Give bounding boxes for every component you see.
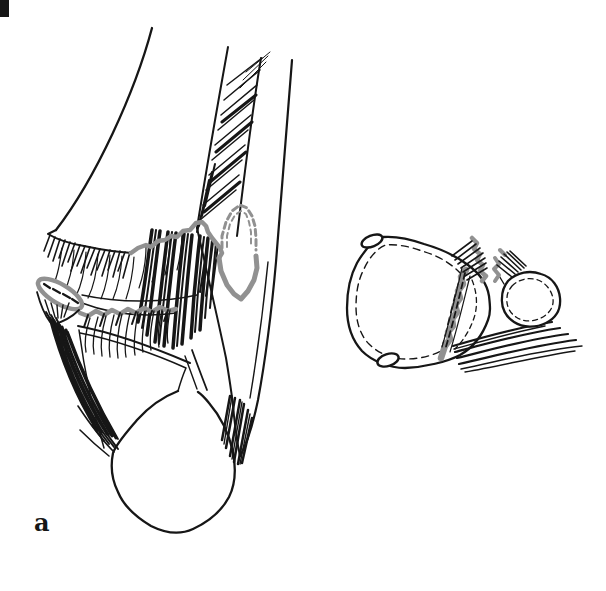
lateral-ligament (222, 396, 252, 464)
medial-malleolus-fragment (34, 273, 87, 325)
tibia-shaft (48, 28, 152, 253)
interosseous-membrane-hatch (197, 52, 270, 299)
panel-label: a (34, 508, 50, 537)
calcaneus (112, 391, 235, 533)
frontal-view (34, 28, 292, 533)
figure-panel: a (0, 0, 606, 591)
posterior-fragment-outline (219, 205, 257, 299)
axial-fibula-section (498, 272, 560, 327)
ankle-fracture-illustration (0, 0, 606, 591)
axial-view (347, 232, 582, 372)
